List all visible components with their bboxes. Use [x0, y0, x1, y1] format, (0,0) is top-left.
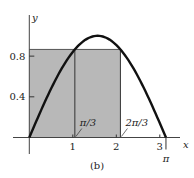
label-leader-line — [121, 129, 127, 137]
vertical-line-label: π/3 — [79, 117, 96, 128]
y-tick-label: 0.8 — [9, 51, 25, 62]
x-tick-label: 3 — [157, 141, 163, 152]
x-tick-label: 2 — [113, 141, 119, 152]
x-tick-label: 1 — [70, 141, 76, 152]
pi-label: π — [162, 153, 170, 164]
x-axis-label: x — [183, 139, 189, 150]
y-tick-label: 0.4 — [9, 91, 25, 102]
sine-plot: 123 0.40.8 π/32π/3 x y (b) π — [0, 0, 194, 178]
y-axis-label: y — [31, 12, 38, 23]
vertical-line-label: 2π/3 — [124, 117, 148, 128]
figure-caption: (b) — [90, 160, 104, 171]
